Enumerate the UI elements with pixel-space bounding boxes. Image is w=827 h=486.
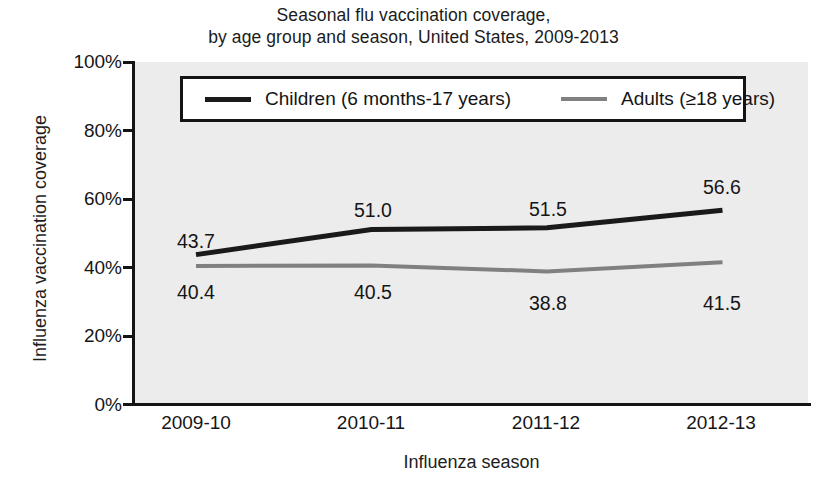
- chart-legend: Children (6 months-17 years) Adults (≥18…: [180, 76, 746, 122]
- data-label-adults-2012-13: 41.5: [677, 293, 767, 313]
- y-axis-tick-20: [123, 335, 133, 338]
- data-label-children-2011-12: 51.5: [503, 199, 593, 219]
- data-label-children-2012-13: 56.6: [677, 177, 767, 197]
- data-label-adults-2011-12: 38.8: [503, 293, 593, 313]
- x-axis-label-2010-11: 2010-11: [291, 412, 451, 434]
- y-axis-tick-40: [123, 266, 133, 269]
- legend-swatch-adults-icon: [561, 97, 607, 101]
- x-axis-label-2011-12: 2011-12: [466, 412, 626, 434]
- y-axis-tick-80: [123, 129, 133, 132]
- data-label-adults-2010-11: 40.5: [328, 282, 418, 302]
- legend-item-children[interactable]: Children (6 months-17 years): [205, 89, 511, 109]
- y-axis-tick-60: [123, 198, 133, 201]
- legend-swatch-children-icon: [205, 97, 251, 102]
- y-axis-title: Influenza vaccination coverage: [30, 59, 51, 419]
- data-label-children-2009-10: 43.7: [151, 231, 241, 251]
- chart-title-line-2: by age group and season, United States, …: [0, 26, 827, 48]
- chart-figure: Seasonal flu vaccination coverage, by ag…: [0, 0, 827, 486]
- chart-title: Seasonal flu vaccination coverage, by ag…: [0, 4, 827, 48]
- data-label-adults-2009-10: 40.4: [151, 282, 241, 302]
- chart-title-line-1: Seasonal flu vaccination coverage,: [0, 4, 827, 26]
- x-axis-line: [132, 403, 811, 406]
- legend-item-adults[interactable]: Adults (≥18 years): [561, 89, 775, 109]
- x-axis-label-2012-13: 2012-13: [641, 412, 801, 434]
- x-axis-label-2009-10: 2009-10: [116, 412, 276, 434]
- x-axis-title: Influenza season: [135, 452, 808, 473]
- data-label-children-2010-11: 51.0: [328, 200, 418, 220]
- y-axis-tick-100: [123, 61, 133, 64]
- y-axis-tick-0: [123, 403, 133, 406]
- legend-label-children: Children (6 months-17 years): [265, 89, 511, 109]
- legend-label-adults: Adults (≥18 years): [621, 89, 775, 109]
- y-axis-tick-labels: 100% 80% 60% 40% 20% 0%: [8, 0, 122, 486]
- y-axis-line: [132, 61, 135, 406]
